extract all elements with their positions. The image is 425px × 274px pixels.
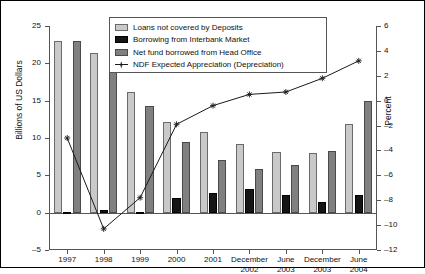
bar-loans — [127, 92, 135, 213]
bar-loans — [163, 122, 171, 212]
legend-item-netfund: Net fund borrowed from Head Office — [115, 46, 321, 59]
bar-loans — [272, 152, 280, 212]
legend-item-loans: Loans not covered by Deposits — [115, 21, 321, 34]
y2-tick-label: –8 — [384, 196, 414, 204]
legend-item-ndf: NDF Expected Appreciation (Depreciation) — [115, 59, 321, 72]
bar-netfund — [145, 106, 153, 213]
y2-tick-label: –4 — [384, 146, 414, 154]
y-tick-label: 5 — [1, 171, 41, 179]
y-tick — [45, 101, 49, 102]
bar-netfund — [182, 142, 190, 213]
bar-loans — [54, 41, 62, 213]
bar-netfund — [291, 165, 299, 213]
y2-tick-label: –6 — [384, 171, 414, 179]
legend-label: Net fund borrowed from Head Office — [133, 48, 261, 57]
y2-tick — [377, 200, 381, 201]
bar-netfund — [328, 151, 336, 212]
legend-label: Loans not covered by Deposits — [133, 23, 243, 32]
y2-tick-label: 4 — [384, 47, 414, 55]
bar-interbank — [136, 212, 144, 214]
x-tick — [140, 250, 141, 254]
bar-interbank — [209, 193, 217, 213]
y2-tick — [377, 250, 381, 251]
y-tick — [45, 138, 49, 139]
y2-tick-label: 6 — [384, 22, 414, 30]
bar-interbank — [100, 210, 108, 212]
x-tick — [286, 250, 287, 254]
y2-tick-label: 2 — [384, 72, 414, 80]
legend-label: Borrowing from Interbank Market — [133, 35, 250, 44]
bar-interbank — [172, 198, 180, 212]
swatch-black-icon — [115, 36, 128, 43]
y2-tick — [377, 225, 381, 226]
y2-tick-label: –10 — [384, 221, 414, 229]
swatch-light-gray-icon — [115, 24, 128, 31]
x-tick — [104, 250, 105, 254]
x-tick — [67, 250, 68, 254]
bar-interbank — [318, 202, 326, 212]
y2-tick — [377, 150, 381, 151]
y2-tick-label: –12 — [384, 246, 414, 254]
x-tick — [213, 250, 214, 254]
chart-legend: Loans not covered by Deposits Borrowing … — [109, 17, 327, 73]
y-tick-label: 20 — [1, 59, 41, 67]
y2-tick-label: 0 — [384, 97, 414, 105]
y-tick-label: 0 — [1, 209, 41, 217]
bar-netfund — [255, 169, 263, 213]
line-star-marker-icon — [115, 61, 128, 68]
bar-interbank — [63, 212, 71, 214]
y-tick-label: 15 — [1, 97, 41, 105]
x-tick — [359, 250, 360, 254]
zero-line — [49, 213, 377, 214]
bar-loans — [309, 153, 317, 213]
y-tick — [45, 250, 49, 251]
legend-item-interbank: Borrowing from Interbank Market — [115, 34, 321, 47]
bar-interbank — [282, 195, 290, 213]
y2-tick — [377, 101, 381, 102]
y-tick — [45, 63, 49, 64]
y2-tick — [377, 126, 381, 127]
y2-tick — [377, 76, 381, 77]
x-tick — [249, 250, 250, 254]
y-tick-label: –5 — [1, 246, 41, 254]
x-tick — [177, 250, 178, 254]
bar-netfund — [218, 160, 226, 213]
swatch-dark-gray-icon — [115, 49, 128, 56]
bar-netfund — [73, 41, 81, 213]
y-tick-label: 25 — [1, 22, 41, 30]
y-tick — [45, 26, 49, 27]
bar-loans — [236, 144, 244, 213]
y2-tick-label: –2 — [384, 122, 414, 130]
bar-loans — [90, 53, 98, 213]
y2-tick — [377, 26, 381, 27]
y-tick — [45, 175, 49, 176]
y-tick — [45, 213, 49, 214]
bar-loans — [345, 124, 353, 213]
bar-netfund — [364, 101, 372, 213]
x-tick-label: June2004 — [329, 255, 389, 274]
y2-tick — [377, 175, 381, 176]
y-tick-label: 10 — [1, 134, 41, 142]
bar-loans — [200, 132, 208, 213]
bar-interbank — [245, 189, 253, 213]
y2-tick — [377, 51, 381, 52]
legend-label: NDF Expected Appreciation (Depreciation) — [133, 60, 284, 69]
x-tick — [322, 250, 323, 254]
bar-interbank — [355, 195, 363, 213]
bar-netfund — [109, 68, 117, 213]
